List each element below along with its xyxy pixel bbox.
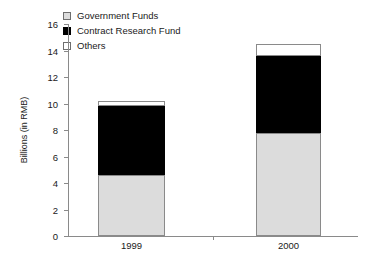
y-tick-label: 12 — [28, 72, 58, 83]
legend-label: Government Funds — [77, 10, 158, 21]
bar-segment-contract-research-fund — [98, 106, 165, 175]
bar-segment-government-funds — [98, 175, 165, 236]
x-tick-label-1999: 1999 — [92, 240, 172, 251]
legend-item-government-funds: Government Funds — [63, 9, 181, 22]
y-tick-label: 8 — [28, 125, 58, 136]
y-tick-label: 16 — [28, 19, 58, 30]
bar-segment-others — [98, 101, 165, 106]
bar-segment-others — [256, 44, 321, 56]
y-tick-mark — [64, 104, 68, 105]
y-tick-mark — [64, 24, 68, 25]
bar-2000 — [256, 44, 321, 236]
bar-1999 — [98, 101, 165, 236]
y-tick-mark — [64, 130, 68, 131]
y-tick-label: 0 — [28, 231, 58, 242]
y-tick-mark — [64, 183, 68, 184]
x-tick-label-2000: 2000 — [249, 240, 329, 251]
y-tick-mark — [64, 210, 68, 211]
y-tick-label: 6 — [28, 151, 58, 162]
bar-segment-contract-research-fund — [256, 56, 321, 133]
y-tick-mark — [64, 236, 68, 237]
y-tick-mark — [64, 77, 68, 78]
y-tick-label: 2 — [28, 204, 58, 215]
bar-segment-government-funds — [256, 133, 321, 236]
y-tick-label: 14 — [28, 45, 58, 56]
gray-square-icon — [63, 12, 71, 20]
y-axis-line — [68, 24, 69, 237]
x-tick-mark — [213, 236, 214, 240]
y-tick-label: 10 — [28, 98, 58, 109]
y-tick-label: 4 — [28, 178, 58, 189]
plot-area: 16 14 12 10 8 6 4 2 0 1999 2000 — [68, 24, 358, 236]
y-tick-mark — [64, 157, 68, 158]
stacked-bar-chart: Government Funds Contract Research Fund … — [0, 0, 386, 267]
y-tick-mark — [64, 51, 68, 52]
